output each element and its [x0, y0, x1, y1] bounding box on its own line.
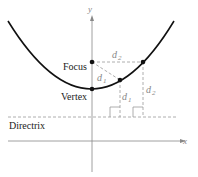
parabola-diagram: Focus Vertex Directrix x y d 2 d 1 d 1 d… [0, 0, 198, 177]
y-axis-label: y [87, 4, 92, 14]
diagram-canvas: Focus Vertex Directrix x y d 2 d 1 d 1 d… [0, 0, 198, 177]
x-axis-label: x [182, 136, 187, 146]
d1-vertical-label: d 1 [122, 91, 132, 104]
svg-text:1: 1 [103, 77, 107, 85]
d1-slant-label: d 1 [97, 72, 107, 85]
y-axis [90, 15, 94, 172]
svg-text:2: 2 [152, 89, 156, 97]
focus-label: Focus [63, 61, 87, 72]
x-axis [8, 139, 186, 143]
parabola-curve [8, 21, 174, 89]
directrix-label: Directrix [9, 120, 45, 131]
d2-top-label: d 2 [112, 49, 122, 62]
vertex-label: Vertex [61, 91, 87, 102]
curve-point-2 [141, 60, 146, 65]
svg-text:2: 2 [118, 54, 122, 62]
vertex-point [90, 87, 95, 92]
focus-point [90, 60, 95, 65]
svg-text:1: 1 [128, 96, 132, 104]
d2-vertical-label: d 2 [146, 84, 156, 97]
right-angle-marks [110, 107, 143, 117]
curve-point-1 [118, 78, 123, 83]
